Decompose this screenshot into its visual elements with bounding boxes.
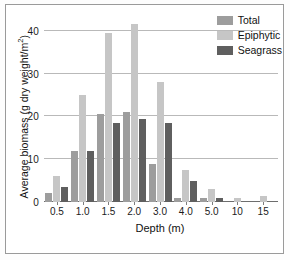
x-axis-tick-mark: [134, 202, 135, 205]
bar-seagrass: [216, 198, 223, 202]
bar-group: 1.0: [70, 18, 96, 202]
x-axis-label: Depth (m): [44, 222, 276, 234]
bar-seagrass: [139, 119, 146, 202]
legend-label: Total: [238, 14, 260, 26]
x-axis-tick-mark: [160, 202, 161, 205]
bar-epiphytic: [131, 24, 138, 202]
bar-group: 4.0: [173, 18, 199, 202]
bar-epiphytic: [53, 176, 60, 202]
x-axis-tick-label: 15: [258, 206, 269, 217]
x-axis-tick-mark: [186, 202, 187, 205]
bar-seagrass: [113, 123, 120, 202]
legend-label: Seagrass: [238, 44, 282, 56]
x-axis-tick-label: 2.0: [127, 206, 141, 217]
y-axis-label-text: Average biomass (g dry weight/m: [18, 43, 30, 199]
x-axis-tick-label: 10: [232, 206, 243, 217]
bar-epiphytic: [182, 170, 189, 202]
legend-item: Seagrass: [217, 44, 282, 56]
bar-group: 0.5: [44, 18, 70, 202]
bar-total: [149, 164, 156, 203]
legend: TotalEpiphyticSeagrass: [217, 14, 282, 56]
bar-epiphytic: [208, 189, 215, 202]
x-axis-tick-mark: [108, 202, 109, 205]
legend-item: Epiphytic: [217, 29, 282, 41]
bar-group: 3.0: [147, 18, 173, 202]
x-axis-tick-label: 5.0: [205, 206, 219, 217]
legend-swatch-epiphytic: [217, 31, 233, 40]
x-axis-tick-mark: [212, 202, 213, 205]
bar-total: [71, 151, 78, 202]
bar-total: [174, 198, 181, 202]
bar-total: [97, 114, 104, 202]
x-axis-tick-mark: [57, 202, 58, 205]
bar-epiphytic: [105, 33, 112, 202]
figure: 010203040 0.51.01.52.03.04.05.01015 Dept…: [0, 0, 290, 260]
bar-group: 2.0: [121, 18, 147, 202]
legend-swatch-total: [217, 16, 233, 25]
y-axis-tick-label: 0: [33, 197, 39, 208]
bar-total: [200, 198, 207, 202]
x-axis-tick-mark: [263, 202, 264, 205]
bar-epiphytic: [157, 82, 164, 202]
x-axis-tick-mark: [83, 202, 84, 205]
x-axis-tick-label: 4.0: [179, 206, 193, 217]
x-axis-tick-label: 3.0: [153, 206, 167, 217]
x-axis-tick-mark: [237, 202, 238, 205]
bar-total: [45, 193, 52, 202]
legend-swatch-seagrass: [217, 46, 233, 55]
y-axis-label-exponent: 2: [16, 39, 25, 43]
x-axis-tick-label: 0.5: [50, 206, 64, 217]
legend-label: Epiphytic: [238, 29, 281, 41]
bar-seagrass: [190, 181, 197, 202]
bar-epiphytic: [79, 95, 86, 202]
x-axis-tick-label: 1.5: [102, 206, 116, 217]
y-axis-label: Average biomass (g dry weight/m2): [16, 32, 30, 202]
bar-seagrass: [61, 187, 68, 202]
y-axis-label-close: ): [18, 35, 30, 39]
bar-seagrass: [165, 123, 172, 202]
bar-group: 1.5: [96, 18, 122, 202]
legend-item: Total: [217, 14, 282, 26]
bar-total: [123, 112, 130, 202]
x-axis-tick-label: 1.0: [76, 206, 90, 217]
bar-seagrass: [87, 151, 94, 202]
